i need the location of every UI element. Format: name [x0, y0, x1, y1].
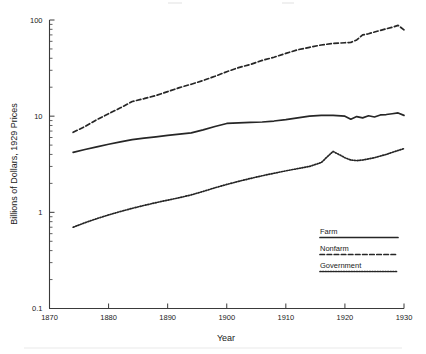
series-line-nonfarm [73, 25, 404, 132]
legend-label-government: Government [320, 261, 362, 270]
y-axis-ticks [50, 20, 55, 309]
chart-legend: FarmNonfarmGovernment [320, 227, 398, 272]
y-tick-label: 100 [30, 16, 43, 25]
y-tick-label: 10 [34, 112, 42, 121]
data-series-group [73, 25, 404, 227]
x-tick-label: 1890 [159, 313, 176, 322]
scan-artifact-top [168, 2, 294, 4]
line-chart: 0.1110100 1870188018901900191019201930 Y… [0, 0, 426, 354]
x-axis-title: Year [217, 333, 235, 343]
x-tick-label: 1920 [337, 313, 354, 322]
series-line-farm [73, 113, 404, 152]
x-tick-label: 1870 [41, 313, 58, 322]
y-tick-label: 1 [38, 208, 42, 217]
series-line-government [73, 149, 404, 228]
x-axis-tick-labels: 1870188018901900191019201930 [41, 313, 412, 322]
y-axis-tick-labels: 0.1110100 [30, 16, 43, 314]
legend-label-farm: Farm [320, 227, 338, 236]
chart-container: 0.1110100 1870188018901900191019201930 Y… [0, 0, 426, 354]
x-tick-label: 1880 [100, 313, 117, 322]
y-axis-title: Billions of Dollars, 1929 Prices [9, 103, 19, 225]
x-tick-label: 1930 [396, 313, 413, 322]
x-tick-label: 1910 [277, 313, 294, 322]
x-axis-ticks [50, 304, 405, 309]
scan-artifact-bottom [24, 347, 402, 349]
x-tick-label: 1900 [218, 313, 235, 322]
legend-label-nonfarm: Nonfarm [320, 244, 349, 253]
